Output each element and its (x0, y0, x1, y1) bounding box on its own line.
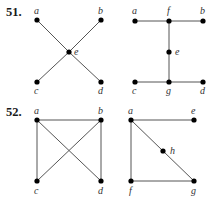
vertex-b (200, 18, 205, 23)
vertex-h (160, 148, 165, 153)
vertex-c (34, 79, 39, 84)
vertex-f (128, 178, 133, 183)
vertex-e (191, 117, 196, 122)
vertex-e (66, 49, 71, 54)
edge-e-c (37, 52, 69, 82)
graph-52-right: aehfg (128, 105, 197, 196)
vertex-label-e: e (175, 46, 180, 57)
vertex-c (34, 178, 39, 183)
vertex-label-a: a (34, 105, 39, 116)
vertex-b (98, 117, 103, 122)
vertex-label-c: c (132, 85, 137, 96)
vertex-label-b: b (98, 105, 103, 116)
vertex-a (132, 18, 137, 23)
vertex-label-e: e (74, 46, 79, 57)
graph-51-right: afbecgd (132, 5, 206, 96)
vertex-label-a: a (128, 105, 133, 116)
problem-51: 51. abecd afbecgd (6, 5, 206, 96)
vertex-f (166, 18, 171, 23)
edge-a-h (131, 120, 163, 151)
vertex-label-a: a (34, 5, 39, 16)
vertex-d (200, 79, 205, 84)
problem-number: 51. (6, 5, 22, 19)
vertex-label-d: d (98, 85, 104, 96)
vertex-label-a: a (132, 5, 137, 16)
vertex-a (128, 117, 133, 122)
edge-a-e (37, 20, 69, 52)
graph-diagram-canvas: 51. abecd afbecgd 52. abcd aehfg (0, 0, 211, 204)
vertex-label-c: c (34, 185, 39, 196)
vertex-label-d: d (200, 85, 206, 96)
vertex-label-c: c (34, 85, 39, 96)
vertex-b (98, 17, 103, 22)
vertex-label-e: e (191, 105, 196, 116)
graph-51-left: abecd (34, 5, 104, 96)
vertex-label-f: f (129, 185, 133, 196)
vertex-e (166, 49, 171, 54)
vertex-label-f: f (167, 5, 171, 16)
vertex-label-b: b (200, 5, 205, 16)
problem-52: 52. abcd aehfg (6, 105, 197, 196)
vertex-a (34, 17, 39, 22)
vertex-g (191, 178, 196, 183)
edge-h-g (163, 151, 194, 181)
vertex-label-d: d (98, 185, 104, 196)
problem-number: 52. (6, 105, 22, 119)
vertex-label-g: g (166, 85, 171, 96)
vertex-d (98, 79, 103, 84)
vertex-label-h: h (170, 145, 175, 156)
vertex-label-b: b (98, 5, 103, 16)
graph-52-left: abcd (34, 105, 104, 196)
vertex-c (132, 79, 137, 84)
vertex-g (166, 79, 171, 84)
vertex-d (98, 178, 103, 183)
vertex-label-g: g (191, 185, 196, 196)
vertex-a (34, 117, 39, 122)
